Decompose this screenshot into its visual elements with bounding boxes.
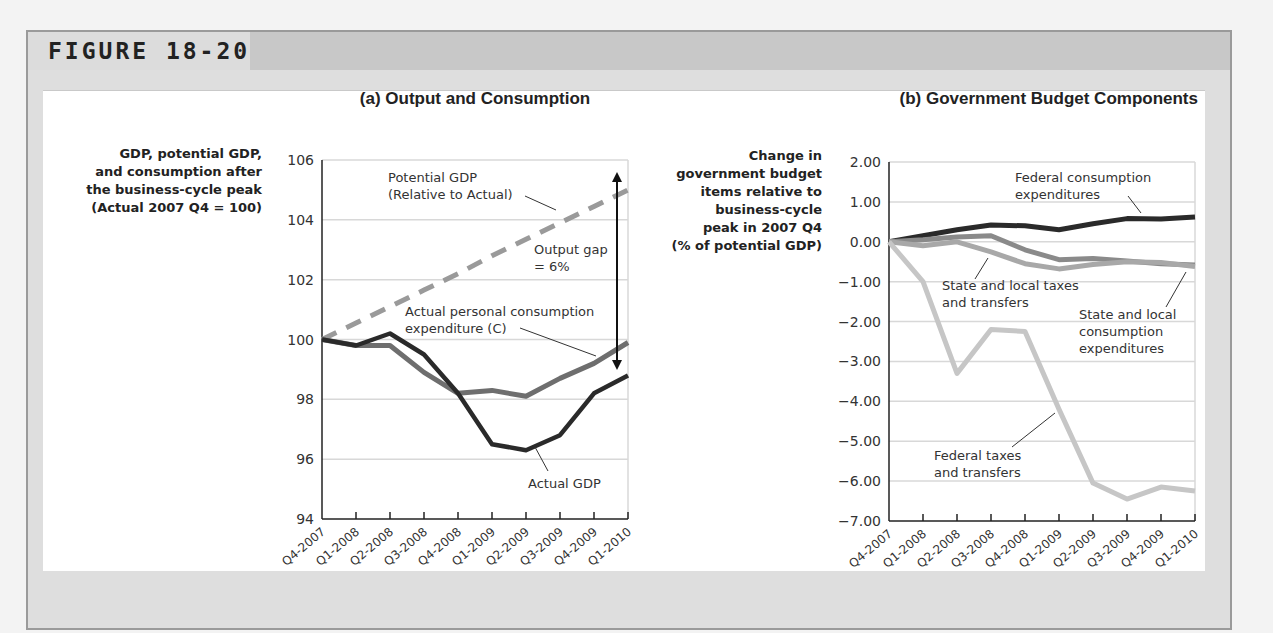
state-local-taxes-label: State and local taxes [942, 278, 1079, 293]
federal-consumption-leader [1128, 196, 1141, 213]
state-local-taxes-leader [975, 258, 988, 279]
state-local-consumption-leader [1166, 272, 1186, 307]
y-tick-label: −5.00 [838, 433, 881, 449]
state-local-consumption-label: State and local [1079, 307, 1176, 322]
potential-gdp-leader [525, 196, 556, 210]
federal-taxes-label: Federal taxes [934, 448, 1021, 463]
consumption-label: Actual personal consumption [405, 304, 594, 319]
y-axis-label-line: GDP, potential GDP, [119, 146, 262, 161]
state-local-taxes-label-2: and transfers [942, 295, 1029, 310]
y-tick-label: −7.00 [838, 513, 881, 529]
actual-gdp-label: Actual GDP [528, 476, 601, 491]
consumption-leader [520, 328, 596, 356]
y-axis-label-line: (% of potential GDP) [672, 238, 822, 253]
y-tick-label: 102 [287, 272, 314, 288]
y-axis-label-line: business-cycle [715, 202, 822, 217]
y-tick-label: 1.00 [850, 194, 881, 210]
y-axis-label-line: peak in 2007 Q4 [703, 220, 822, 235]
y-axis-label-line: (Actual 2007 Q4 = 100) [91, 200, 262, 215]
state-local-consumption-label-3: expenditures [1079, 341, 1164, 356]
chart-government-budget: (b) Government Budget Components Change … [672, 89, 1201, 571]
federal-consumption-label-2: expenditures [1015, 187, 1100, 202]
chart-b-title: (b) Government Budget Components [900, 89, 1198, 108]
y-tick-label: −2.00 [838, 314, 881, 330]
consumption-line [322, 340, 628, 397]
y-tick-label: 100 [287, 332, 314, 348]
y-tick-label: 98 [296, 391, 314, 407]
y-tick-label: 94 [296, 511, 314, 527]
y-tick-label: 96 [296, 451, 314, 467]
y-axis-label-line: the business-cycle peak [86, 182, 262, 197]
y-tick-label: −4.00 [838, 393, 881, 409]
output-gap-arrow-icon [612, 172, 622, 370]
potential-gdp-label: Potential GDP [388, 170, 477, 185]
output-gap-label-2: = 6% [534, 259, 570, 274]
chart-output-consumption: (a) Output and Consumption GDP, potentia… [86, 89, 634, 569]
chart-b-x-ticks: Q4-2007Q1-2008Q2-2008Q3-2008Q4-2008Q1-20… [846, 514, 1201, 571]
y-axis-label-line: government budget [676, 166, 822, 181]
y-axis-label-line: items relative to [701, 184, 822, 199]
y-tick-label: −3.00 [838, 353, 881, 369]
chart-a-annotations: Potential GDP (Relative to Actual) Outpu… [388, 170, 622, 491]
federal-taxes-label-2: and transfers [934, 465, 1021, 480]
y-tick-label: 2.00 [850, 154, 881, 170]
consumption-label-2: expenditure (C) [405, 321, 507, 336]
y-axis-label-line: Change in [749, 148, 822, 163]
y-tick-label: −1.00 [838, 274, 881, 290]
chart-b-y-axis-label: Change ingovernment budgetitems relative… [672, 148, 823, 253]
y-tick-label: 106 [287, 152, 314, 168]
state-local-consumption-label-2: consumption [1079, 324, 1163, 339]
y-tick-label: 0.00 [850, 234, 881, 250]
output-gap-label: Output gap [534, 242, 608, 257]
y-tick-label: −6.00 [838, 473, 881, 489]
chart-b-y-ticks: 2.001.000.00−1.00−2.00−3.00−4.00−5.00−6.… [838, 154, 881, 529]
y-tick-label: 104 [287, 212, 314, 228]
y-axis-label-line: and consumption after [95, 164, 262, 179]
federal-consumption-label: Federal consumption [1015, 170, 1151, 185]
chart-a-x-ticks: Q4-2007Q1-2008Q2-2008Q3-2008Q4-2008Q1-20… [279, 512, 634, 569]
charts-canvas: (a) Output and Consumption GDP, potentia… [0, 0, 1273, 633]
chart-a-title: (a) Output and Consumption [360, 89, 590, 108]
chart-a-y-ticks: 106104102100989694 [287, 152, 314, 527]
potential-gdp-label-2: (Relative to Actual) [388, 187, 513, 202]
chart-a-y-axis-label: GDP, potential GDP,and consumption after… [86, 146, 262, 215]
